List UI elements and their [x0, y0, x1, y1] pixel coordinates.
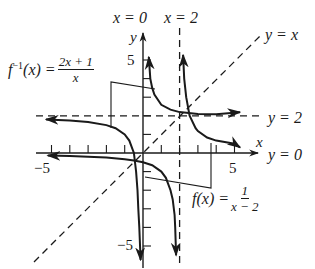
x-tick-label-5: 5 — [229, 161, 237, 176]
function-denominator: x − 2 — [231, 199, 259, 213]
inverse-label-pointer — [111, 82, 155, 128]
inverse-fraction: 2x + 1 x — [58, 55, 94, 84]
x-axis-label: x — [256, 135, 263, 150]
function-lhs: f(x) = — [192, 191, 229, 207]
function-numerator: 1 — [241, 184, 250, 199]
x-tick-label-neg5: −5 — [34, 161, 50, 176]
inverse-denominator: x — [73, 70, 79, 84]
inverse-numerator: 2x + 1 — [58, 55, 94, 70]
f-label-pointer — [145, 143, 211, 188]
label-x-equals-2: x = 2 — [164, 10, 198, 26]
y-tick-label-neg5: −5 — [117, 238, 133, 253]
inverse-lhs-arg: (x) = — [23, 62, 56, 78]
f-curve-right-branch — [183, 55, 240, 147]
inverse-curve-right-branch — [149, 57, 240, 114]
function-label: f(x) = 1 x − 2 — [192, 184, 259, 213]
label-y-equals-2: y = 2 — [268, 110, 302, 126]
f-curve-left-branch — [48, 156, 176, 256]
y-tick-label-5: 5 — [127, 53, 135, 68]
inverse-function-label: f−1(x) = 2x + 1 x — [8, 55, 94, 84]
inverse-lhs-sup: −1 — [12, 61, 23, 71]
label-y-equals-0: y = 0 — [268, 147, 302, 163]
label-y-equals-x: y = x — [265, 27, 298, 43]
function-fraction: 1 x − 2 — [231, 184, 259, 213]
label-x-equals-0: x = 0 — [113, 10, 147, 26]
y-axis-label: y — [130, 30, 137, 45]
